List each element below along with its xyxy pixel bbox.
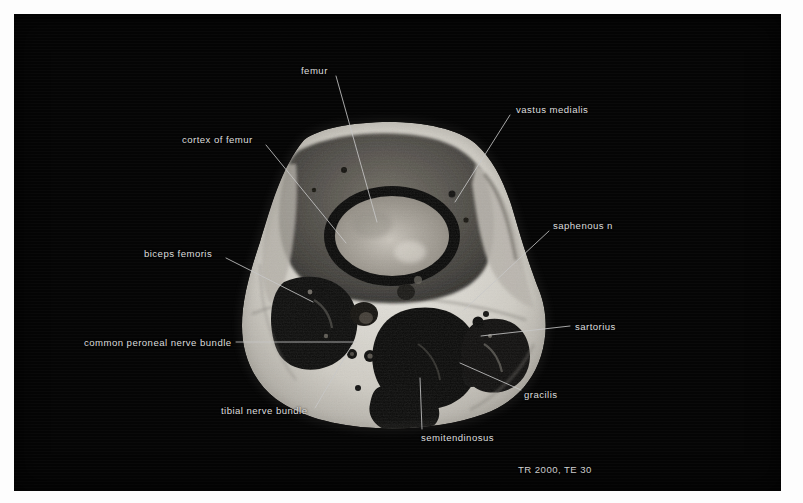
- leader-line-saphenous-n: [464, 231, 549, 310]
- scan-parameters-text: TR 2000, TE 30: [518, 465, 592, 475]
- leader-line-femur: [336, 76, 377, 222]
- page-canvas: femurcortex of femurvastus medialissaphe…: [0, 0, 803, 503]
- leader-line-biceps-femoris: [226, 258, 313, 302]
- annotation-label-sartorius: sartorius: [575, 322, 616, 332]
- annotation-leader-lines: [14, 14, 781, 491]
- mri-photograph: femurcortex of femurvastus medialissaphe…: [14, 14, 781, 491]
- leader-line-gracilis: [460, 363, 521, 390]
- annotation-label-tibial-nerve-bundle: tibial nerve bundle: [221, 406, 307, 416]
- leader-line-cortex-of-femur: [266, 145, 346, 243]
- annotation-label-biceps-femoris: biceps femoris: [144, 249, 212, 259]
- annotation-label-femur: femur: [301, 66, 328, 76]
- annotation-label-vastus-medialis: vastus medialis: [516, 105, 588, 115]
- leader-line-semitendinosus: [420, 378, 422, 429]
- annotation-label-semitendinosus: semitendinosus: [421, 433, 494, 443]
- leader-line-tibial-nerve-bundle: [315, 345, 352, 408]
- annotation-label-saphenous-n: saphenous n: [553, 221, 613, 231]
- annotation-label-cortex-of-femur: cortex of femur: [182, 135, 253, 145]
- leader-line-vastus-medialis: [455, 115, 510, 202]
- leader-line-sartorius: [481, 326, 570, 336]
- annotation-label-common-peroneal-nerve-bundle: common peroneal nerve bundle: [84, 338, 232, 348]
- annotation-label-gracilis: gracilis: [524, 390, 557, 400]
